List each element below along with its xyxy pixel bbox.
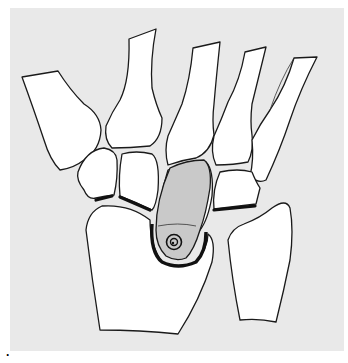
hamate: [214, 170, 260, 209]
implant-stem-center: [172, 242, 174, 244]
figure-label: ·: [6, 349, 10, 361]
wrist-implant-diagram: [0, 0, 348, 363]
